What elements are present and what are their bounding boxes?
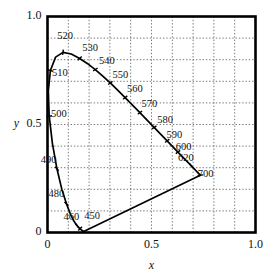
y-tick-label: 1.0 xyxy=(27,8,42,22)
wavelength-label-510: 510 xyxy=(52,67,68,78)
curve-purple-line xyxy=(84,175,201,231)
wavelength-label-560: 560 xyxy=(127,83,143,94)
wavelength-label-550: 550 xyxy=(112,69,128,80)
wavelength-label-490: 490 xyxy=(41,154,57,165)
wavelength-label-700: 700 xyxy=(198,168,214,179)
wavelength-label-500: 500 xyxy=(51,108,67,119)
wavelength-label-480: 480 xyxy=(49,188,65,199)
x-tick-label: 0 xyxy=(45,237,51,251)
wavelength-label-600: 600 xyxy=(176,141,192,152)
wavelength-label-520: 520 xyxy=(57,30,73,41)
wavelength-label-540: 540 xyxy=(99,55,115,66)
plot-canvas: 4504604804905005105205305405505605705805… xyxy=(0,0,275,277)
wavelength-label-620: 620 xyxy=(178,152,194,163)
wavelength-label-450: 450 xyxy=(84,210,100,221)
y-tick-label: 0 xyxy=(36,224,42,238)
x-tick-label: 1.0 xyxy=(248,237,263,251)
wavelength-annotations: 4504604804905005105205305405505605705805… xyxy=(41,30,214,230)
x-axis-title: x xyxy=(148,258,155,272)
wavelength-label-570: 570 xyxy=(142,98,158,109)
chromaticity-diagram-figure: 4504604804905005105205305405505605705805… xyxy=(0,0,275,277)
wavelength-label-530: 530 xyxy=(82,42,98,53)
y-axis-title: y xyxy=(13,116,20,130)
wavelength-tick xyxy=(63,50,64,55)
wavelength-label-580: 580 xyxy=(157,114,173,125)
wavelength-label-460: 460 xyxy=(64,211,80,222)
y-tick-label: 0.5 xyxy=(27,116,42,130)
wavelength-label-590: 590 xyxy=(167,129,183,140)
x-tick-label: 0.5 xyxy=(144,237,159,251)
